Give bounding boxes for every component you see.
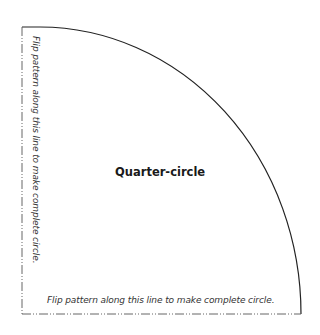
pattern-title: Quarter-circle (115, 165, 205, 179)
bottom-flip-instruction: Flip pattern along this line to make com… (47, 295, 274, 305)
left-flip-instruction: Flip pattern along this line to make com… (31, 36, 41, 263)
